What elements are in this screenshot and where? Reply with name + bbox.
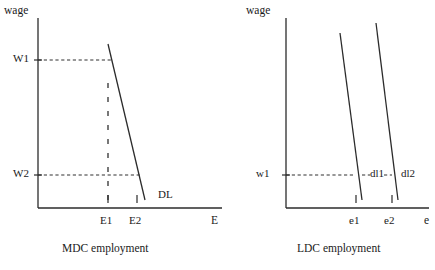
mdc-x-axis-label: E [211,215,218,227]
ldc-tick-label-w1: w1 [256,168,269,179]
ldc-tick-label-e1: e1 [349,215,359,226]
mdc-demand-curve-dl [108,44,145,200]
mdc-tick-label-e2: E2 [129,215,141,226]
ldc-y-axis-label: wage [246,5,270,17]
ldc-tick-label-e2: e2 [384,215,394,226]
ldc-x-axis-label: e [424,215,429,227]
ldc-curve-label-dl2: dl2 [401,168,415,179]
chart-panel-ldc: wage w1 dl1 dl2 e1 e2 e LDC employment [232,0,435,270]
mdc-curve-label-dl: DL [158,189,173,200]
ldc-caption: LDC employment [297,243,380,255]
mdc-tick-label-w1: W1 [13,53,29,64]
mdc-plot-area [0,0,232,270]
ldc-curve-label-dl1: dl1 [370,168,384,179]
ldc-plot-area [232,0,435,270]
mdc-caption: MDC employment [62,243,149,255]
chart-panel-mdc: wage W1 W2 E1 E2 E DL MDC employment [0,0,232,270]
mdc-tick-label-e1: E1 [100,215,112,226]
mdc-tick-label-w2: W2 [13,168,29,179]
mdc-y-axis-label: wage [4,5,28,17]
